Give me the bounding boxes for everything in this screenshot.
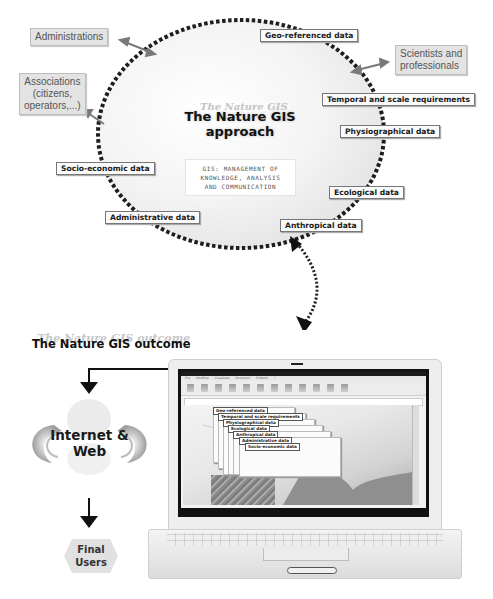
outcome-title: The Nature GIS outcome bbox=[32, 337, 190, 351]
menu-view[interactable]: Visualizza bbox=[215, 376, 230, 381]
tag-geo-referenced-data: Geo-referenced data bbox=[260, 29, 358, 42]
arrow-down-icon bbox=[80, 516, 98, 528]
toolbar-favorites-icon[interactable] bbox=[271, 384, 278, 392]
toolbar-edit-icon[interactable] bbox=[327, 384, 334, 392]
menu-tools[interactable]: Strumenti bbox=[235, 376, 250, 381]
stakeholder-associations: Associations (citizens, operators,...) bbox=[19, 73, 86, 115]
toolbar-forward-icon[interactable] bbox=[201, 384, 208, 392]
menu-file[interactable]: File bbox=[185, 376, 190, 381]
approach-title-line1: The Nature GIS bbox=[178, 109, 302, 124]
gis-app-window: File Modifica Visualizza Strumenti Prefe… bbox=[181, 371, 426, 508]
approach-title-line2: approach bbox=[178, 124, 302, 139]
internet-web-node: Internet & Web bbox=[22, 397, 157, 477]
stakeholder-administrations: Administrations bbox=[30, 28, 108, 46]
laptop-screen: File Modifica Visualizza Strumenti Prefe… bbox=[178, 369, 429, 517]
stakeholder-scientists: Scientists and professionals bbox=[395, 45, 467, 75]
internet-line1: Internet & bbox=[22, 427, 157, 443]
laptop-trackpad bbox=[263, 548, 349, 561]
tag-anthropical-data: Anthropical data bbox=[280, 219, 362, 232]
toolbar-discuss-icon[interactable] bbox=[341, 384, 348, 392]
gis-box-line3: and communication bbox=[192, 182, 289, 191]
laptop-latch bbox=[287, 567, 337, 574]
menu-edit[interactable]: Modifica bbox=[196, 376, 209, 381]
toolbar-history-icon[interactable] bbox=[285, 384, 292, 392]
laptop-keyboard bbox=[167, 533, 443, 546]
approach-diagram: The Nature GIS The Nature GIS approach G… bbox=[0, 0, 493, 300]
final-users-line2: Users bbox=[64, 556, 118, 569]
gis-box-line1: GIS: Management of bbox=[192, 164, 289, 173]
final-users-line1: Final bbox=[64, 543, 118, 556]
toolbar-search-icon[interactable] bbox=[257, 384, 264, 392]
laptop-camera bbox=[291, 363, 303, 365]
gis-definition-box: GIS: Management of knowledge, analysis a… bbox=[185, 159, 296, 196]
scientists-line2: professionals bbox=[400, 60, 462, 72]
screen-layer-socio[interactable]: Socio-economic data bbox=[245, 443, 300, 451]
tag-temporal-scale: Temporal and scale requirements bbox=[322, 93, 475, 106]
final-users-label: Final Users bbox=[64, 543, 118, 569]
scientists-line1: Scientists and bbox=[400, 48, 462, 60]
associations-line1: Associations bbox=[24, 76, 81, 88]
satellite-image bbox=[211, 475, 275, 505]
gis-box-line2: knowledge, analysis bbox=[192, 173, 289, 182]
final-users-node: Final Users bbox=[64, 539, 118, 573]
toolbar-refresh-icon[interactable] bbox=[229, 384, 236, 392]
map-view[interactable]: Geo-referenced data Temporal and scale r… bbox=[183, 405, 419, 505]
tag-physiographical-data: Physiographical data bbox=[340, 125, 440, 138]
tag-socio-economic-data: Socio-economic data bbox=[56, 162, 155, 175]
map-scrollbar[interactable] bbox=[412, 405, 419, 505]
internet-web-label: Internet & Web bbox=[22, 427, 157, 459]
toolbar-mail-icon[interactable] bbox=[299, 384, 306, 392]
associations-line2: (citizens, bbox=[24, 88, 81, 100]
toolbar-home-icon[interactable] bbox=[243, 384, 250, 392]
layer-stack: Geo-referenced data Temporal and scale r… bbox=[213, 407, 373, 477]
associations-line3: operators,...) bbox=[24, 100, 81, 112]
internet-line2: Web bbox=[22, 443, 157, 459]
tag-ecological-data: Ecological data bbox=[329, 186, 404, 199]
app-toolbar bbox=[181, 381, 426, 396]
toolbar-back-icon[interactable] bbox=[187, 384, 194, 392]
toolbar-print-icon[interactable] bbox=[313, 384, 320, 392]
approach-title: The Nature GIS approach bbox=[178, 109, 302, 139]
laptop-base bbox=[148, 529, 462, 579]
toolbar-stop-icon[interactable] bbox=[215, 384, 222, 392]
arrow-down-icon bbox=[80, 382, 98, 394]
laptop-illustration: File Modifica Visualizza Strumenti Prefe… bbox=[138, 355, 478, 587]
menu-help[interactable]: ? bbox=[274, 376, 276, 381]
tag-administrative-data: Administrative data bbox=[105, 211, 200, 224]
menu-favorites[interactable]: Preferiti bbox=[256, 376, 268, 381]
